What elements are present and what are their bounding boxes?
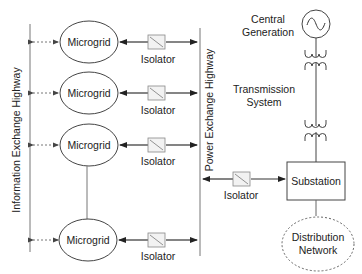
- microgrid-row-4: Microgrid Isolator: [33, 219, 197, 262]
- isolator-icon: [148, 86, 165, 100]
- isolator-icon: [233, 172, 250, 186]
- substation: Substation Isolator: [203, 162, 345, 216]
- distribution-network: Distribution Network: [282, 217, 354, 271]
- isolator-icon: [148, 35, 165, 49]
- microgrid-row-1: Microgrid Isolator: [33, 21, 197, 65]
- distribution-label-line1: Distribution: [292, 231, 345, 243]
- isolator-label: Isolator: [141, 53, 176, 65]
- microgrid-row-3: Microgrid Isolator: [33, 124, 197, 167]
- isolator-label: Isolator: [141, 250, 176, 262]
- substation-label: Substation: [291, 175, 341, 187]
- central-generation: Central Generation: [242, 10, 330, 38]
- microgrid-row-2: Microgrid Isolator: [33, 72, 197, 116]
- isolator-icon: [148, 138, 165, 152]
- info-exchange-highway-label: Information Exchange Highway: [10, 67, 22, 213]
- isolator-label: Isolator: [141, 104, 176, 116]
- transmission-label-line2: System: [246, 96, 281, 108]
- isolator-label: Isolator: [224, 189, 259, 201]
- microgrid-label: Microgrid: [67, 87, 110, 99]
- isolator-icon: [148, 233, 165, 247]
- transmission-system: Transmission System: [233, 38, 326, 162]
- central-generation-label-line1: Central: [251, 13, 285, 25]
- central-generation-label-line2: Generation: [242, 26, 294, 38]
- microgrid-architecture-diagram: Information Exchange Highway Power Excha…: [0, 0, 362, 274]
- microgrid-label: Microgrid: [67, 139, 110, 151]
- distribution-label-line2: Network: [299, 244, 338, 256]
- microgrid-label: Microgrid: [66, 234, 109, 246]
- microgrid-label: Microgrid: [67, 36, 110, 48]
- transmission-label-line1: Transmission: [233, 83, 295, 95]
- isolator-label: Isolator: [141, 155, 176, 167]
- power-exchange-highway-label: Power Exchange Highway: [203, 48, 215, 171]
